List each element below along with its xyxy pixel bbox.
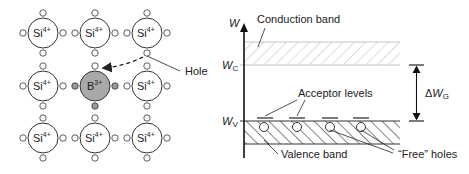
valence-band-label: Valence band	[281, 148, 347, 160]
electron-dot	[144, 10, 150, 16]
electron-dot	[40, 10, 46, 16]
electron-dot	[144, 63, 150, 69]
wc-label: WC	[222, 59, 238, 73]
silicon-atom: Si4+	[72, 10, 118, 56]
electron-dot	[144, 115, 150, 121]
electron-dot	[20, 83, 26, 89]
electron-dot	[72, 30, 78, 36]
band-gap-arrow	[409, 65, 424, 121]
hole-arrow	[104, 57, 143, 68]
electron-dot	[144, 155, 150, 161]
electron-dot	[40, 103, 46, 109]
electron-dot	[164, 30, 170, 36]
electron-dot	[112, 135, 118, 141]
wv-label: WV	[222, 115, 238, 129]
electron-dot	[164, 83, 170, 89]
silicon-atom: Si4+	[20, 63, 66, 109]
electron-dot	[92, 155, 98, 161]
hole-label: Hole	[185, 65, 208, 77]
crystal-lattice: Si4+Si4+Si4+Si4+B3+Si4+Si4+Si4+Si4+	[20, 10, 170, 161]
electron-dot	[112, 83, 118, 89]
electron-dot	[40, 155, 46, 161]
electron-dot	[92, 103, 98, 109]
electron-dot	[60, 30, 66, 36]
band-gap-label: ΔWG	[425, 87, 449, 101]
electron-dot	[40, 50, 46, 56]
semiconductor-diagram: Si4+Si4+Si4+Si4+B3+Si4+Si4+Si4+Si4+ Hole…	[0, 0, 469, 174]
hole-leader-line	[147, 56, 180, 71]
electron-dot	[92, 10, 98, 16]
electron-dot	[144, 103, 150, 109]
silicon-atom: Si4+	[124, 10, 170, 56]
axis-label-w: W	[229, 17, 241, 29]
conduction-band	[244, 42, 400, 65]
free-holes-label: “Free” holes	[398, 148, 458, 160]
electron-dot	[92, 50, 98, 56]
electron-dot	[144, 50, 150, 56]
silicon-atom: Si4+	[124, 115, 170, 161]
silicon-atom: Si4+	[20, 10, 66, 56]
electron-dot	[164, 135, 170, 141]
electron-dot	[124, 135, 130, 141]
acceptor-levels-label: Acceptor levels	[298, 87, 373, 99]
electron-dot	[92, 115, 98, 121]
electron-dot	[112, 30, 118, 36]
electron-dot	[40, 115, 46, 121]
electron-dot	[20, 135, 26, 141]
conduction-band-label: Conduction band	[257, 13, 340, 25]
electron-dot	[60, 83, 66, 89]
electron-dot	[92, 63, 98, 69]
boron-atom: B3+	[72, 63, 118, 109]
electron-dot	[124, 83, 130, 89]
electron-dot	[72, 135, 78, 141]
silicon-atom: Si4+	[124, 63, 170, 109]
silicon-atom: Si4+	[72, 115, 118, 161]
electron-dot	[124, 30, 130, 36]
electron-dot	[72, 83, 78, 89]
electron-dot	[60, 135, 66, 141]
silicon-atom: Si4+	[20, 115, 66, 161]
electron-dot	[20, 30, 26, 36]
electron-dot	[40, 63, 46, 69]
